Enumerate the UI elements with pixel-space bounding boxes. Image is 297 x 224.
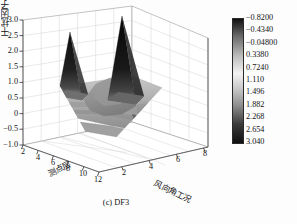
colorbar-tick-1: −0.4340 <box>246 26 273 34</box>
x-tick-10: 10 <box>79 170 87 178</box>
y-tick-4: 4 <box>149 163 153 171</box>
colorbar-tick-2: −0.04800 <box>246 39 277 47</box>
x-tick-2: 2 <box>21 148 25 156</box>
colorbar-tick-3: 0.3380 <box>246 51 269 59</box>
colorbar-tick-4: 0.7240 <box>246 64 269 72</box>
y-tick-8: 8 <box>203 150 207 158</box>
z-tick-2.0: 2.0 <box>0 47 18 55</box>
colorbar-tick-8: 2.268 <box>246 113 264 121</box>
y-tick-6: 6 <box>176 156 180 164</box>
z-tick-0.5: 0.5 <box>0 94 18 102</box>
surface-plot-svg <box>0 4 232 194</box>
z-tick-neg1.0: −1.0 <box>0 141 18 149</box>
x-tick-12: 12 <box>94 176 102 184</box>
z-tick-1.5: 1.5 <box>0 63 18 71</box>
z-tick-neg0.5: −0.5 <box>0 125 18 133</box>
colorbar-tick-10: 3.040 <box>246 138 264 146</box>
colorbar-tick-0: −0.8200 <box>246 14 273 22</box>
y-tick-2: 2 <box>122 169 126 177</box>
figure-3d-surface-df3: 3.0 2.5 2.0 1.5 1.0 0.5 0 −0.5 −1.0 2 4 … <box>0 0 297 224</box>
colorbar <box>232 18 244 144</box>
z-tick-1.0: 1.0 <box>0 78 18 86</box>
z-axis-title-text: 干扰因子 <box>0 0 12 36</box>
z-axis-ticks <box>20 20 24 145</box>
colorbar-tick-9: 2.654 <box>246 126 264 134</box>
plot-area: 3.0 2.5 2.0 1.5 1.0 0.5 0 −0.5 −1.0 2 4 … <box>0 4 232 194</box>
colorbar-labels: −0.8200 −0.4340 −0.04800 0.3380 0.7240 1… <box>246 14 296 146</box>
colorbar-tick-7: 1.882 <box>246 101 264 109</box>
figure-caption: (c) DF3 <box>0 198 232 207</box>
colorbar-tick-6: 1.496 <box>246 88 264 96</box>
colorbar-tick-5: 1.110 <box>246 76 264 84</box>
x-tick-4: 4 <box>36 154 40 162</box>
z-tick-0: 0 <box>0 110 18 118</box>
